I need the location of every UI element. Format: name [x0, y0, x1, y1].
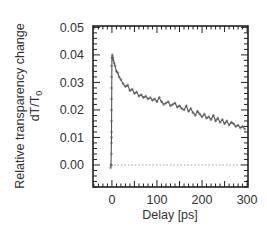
- plot-frame: [93, 26, 248, 187]
- x-axis-ticks: [94, 26, 247, 187]
- data-series: [110, 54, 246, 169]
- y-tick-label: 0.02: [60, 103, 84, 117]
- x-tick-label: 300: [237, 193, 258, 207]
- y-axis-title-subscript: 0: [34, 91, 44, 96]
- y-tick-label: 0.03: [60, 76, 84, 90]
- y-axis-title-line1: Relative transparency change: [13, 23, 27, 188]
- y-tick-label: 0.01: [60, 131, 84, 145]
- y-tick-label: 0.05: [60, 21, 84, 35]
- x-tick-label: 200: [192, 193, 213, 207]
- x-axis-title: Delay [ps]: [142, 208, 198, 222]
- y-axis-title-main: dT/T: [28, 95, 42, 121]
- x-tick-label: 100: [147, 193, 168, 207]
- y-tick-labels: 0.000.010.020.030.040.05: [60, 21, 84, 173]
- x-tick-labels: 0100200300: [108, 193, 257, 207]
- chart: 0.000.010.020.030.040.05 0100200300 Dela…: [0, 0, 267, 229]
- y-tick-label: 0.04: [60, 48, 84, 62]
- y-tick-label: 0.00: [60, 158, 84, 172]
- x-tick-label: 0: [108, 193, 115, 207]
- y-axis-ticks: [93, 27, 248, 187]
- y-axis-title-line2: dT/T0: [28, 91, 44, 122]
